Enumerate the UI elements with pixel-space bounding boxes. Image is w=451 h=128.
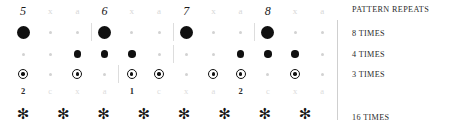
asterisk-icon: ✻ [97, 107, 110, 122]
subdivision-number-cell: x [281, 84, 308, 98]
accent-dot-large [180, 26, 193, 39]
subdivision-number-cell: c [37, 84, 64, 98]
pattern-cell [145, 22, 172, 42]
accent-ring-dot [18, 69, 28, 79]
asterisk-icon: ✻ [17, 107, 30, 122]
rest-dot-small [321, 53, 324, 56]
accent-dot-medium [101, 50, 109, 58]
rest-dot-small [212, 31, 215, 34]
asterisk-cell: ✻ [251, 104, 278, 124]
asterisk-cell: ✻ [291, 104, 318, 124]
asterisk-cell: ✻ [130, 104, 157, 124]
subdivision-number-cell: a [91, 84, 118, 98]
legend-item-4-times: 4 TIMES [352, 51, 385, 59]
asterisk-cell: ✻ [9, 104, 36, 124]
pattern-cell [118, 64, 145, 84]
pattern-cell [173, 64, 200, 84]
rest-dot-small [103, 73, 106, 76]
legend-item-3-times: 3 TIMES [352, 71, 385, 79]
rest-dot-small [185, 53, 188, 56]
measure-number: a [320, 7, 324, 16]
rest-dot-small [49, 31, 52, 34]
pattern-cell [200, 64, 227, 84]
pattern-cell [200, 22, 227, 42]
asterisk-icon: ✻ [218, 107, 231, 122]
measure-number: 8 [265, 5, 271, 17]
rest-dot-small [321, 73, 324, 76]
pattern-cell [254, 22, 281, 42]
pattern-cell [64, 22, 91, 42]
asterisk-icon: ✻ [57, 107, 70, 122]
accent-ring-dot [127, 69, 137, 79]
subdivision-number-cell: c [254, 84, 281, 98]
accent-dot-large [17, 26, 30, 39]
measure-number: a [157, 7, 161, 16]
pattern-cell [173, 22, 200, 42]
pattern-cell [145, 64, 172, 84]
pattern-cell [309, 64, 336, 84]
pattern-cell [309, 44, 336, 64]
subdivision-number-cell: 2 [227, 84, 254, 98]
subdivision-number: 2 [238, 87, 242, 96]
pattern-cell [91, 22, 118, 42]
pattern-cell [254, 44, 281, 64]
subdivision-number: a [103, 87, 107, 96]
measure-number: x [293, 7, 298, 16]
vertical-divider [337, 20, 338, 120]
accent-dot-medium [74, 50, 82, 58]
pattern-cell [227, 64, 254, 84]
accent-dot-medium [291, 50, 299, 58]
rest-dot-small [49, 73, 52, 76]
measure-number: 5 [20, 5, 26, 17]
subdivision-number: c [157, 87, 161, 96]
pattern-cell [118, 44, 145, 64]
asterisk-cell: ✻ [211, 104, 238, 124]
pattern-cell [37, 22, 64, 42]
measure-number: x [130, 7, 135, 16]
pattern-cell [281, 44, 308, 64]
pattern-cell [91, 64, 118, 84]
subdivision-number-cell: 1 [118, 84, 145, 98]
pattern-cell [118, 22, 145, 42]
accent-ring-dot [290, 69, 300, 79]
measure-number: 7 [183, 5, 189, 17]
measure-number-cell: a [227, 2, 254, 20]
pattern-cell [281, 22, 308, 42]
measure-number: a [239, 7, 243, 16]
pattern-cell [64, 44, 91, 64]
subdivision-number-cell: x [173, 84, 200, 98]
pattern-cell [254, 64, 281, 84]
pattern-cell [9, 44, 36, 64]
subdivision-number: x [184, 87, 188, 96]
measure-number-cell: x [118, 2, 145, 20]
pattern-cell [281, 64, 308, 84]
measure-number-cell: x [200, 2, 227, 20]
measure-number-cell: x [37, 2, 64, 20]
asterisk-icon: ✻ [138, 107, 151, 122]
legend-heading: PATTERN REPEATS [352, 6, 429, 14]
rest-dot-small [239, 31, 242, 34]
pattern-cell [227, 44, 254, 64]
asterisk-row: ✻✻✻✻✻✻✻✻ [0, 104, 340, 124]
measure-number-cell: 7 [173, 2, 200, 20]
asterisk-icon: ✻ [299, 107, 312, 122]
rest-dot-small [158, 53, 161, 56]
pattern-cell [309, 22, 336, 42]
subdivision-number-cell: x [64, 84, 91, 98]
measure-number: 6 [102, 5, 108, 17]
subdivision-number-cell: a [200, 84, 227, 98]
measure-number: x [48, 7, 53, 16]
rest-dot-small [294, 31, 297, 34]
measure-number-row: 5xa6xa7xa8xa [0, 2, 340, 20]
measure-number-cell: 8 [254, 2, 281, 20]
accent-dot-medium [237, 50, 245, 58]
pattern-cell [64, 64, 91, 84]
subdivision-number: 2 [21, 87, 25, 96]
subdivision-number: 1 [130, 87, 134, 96]
rest-dot-small [130, 31, 133, 34]
accent-ring-dot [236, 69, 246, 79]
pattern-cell [173, 44, 200, 64]
rest-dot-small [321, 31, 324, 34]
pattern-grid: 5xa6xa7xa8xa 2cxa1cxa2cxa ✻✻✻✻✻✻✻✻ [0, 0, 340, 128]
row-8-times [0, 22, 340, 42]
